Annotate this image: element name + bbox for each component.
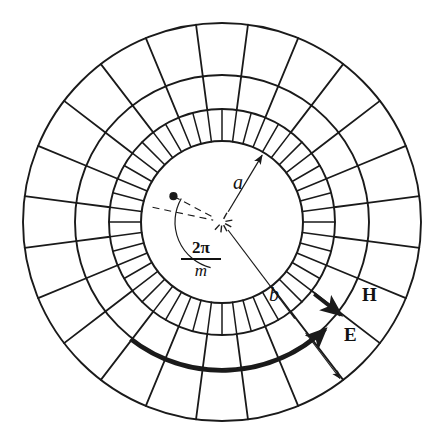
mesh-radial-line bbox=[166, 86, 179, 117]
mesh-radial-line bbox=[203, 334, 207, 368]
mesh-radial-line bbox=[263, 124, 279, 152]
mesh-radial-line bbox=[291, 105, 312, 132]
mesh-radial-line bbox=[133, 105, 154, 132]
mesh-radial-line bbox=[207, 302, 211, 334]
mesh-radial-line bbox=[207, 110, 211, 142]
mesh-radial-line bbox=[233, 110, 237, 142]
center-cross-tick bbox=[224, 225, 227, 231]
mesh-radial-line bbox=[368, 196, 420, 203]
mesh-radial-line bbox=[133, 312, 154, 339]
mesh-radial-line bbox=[311, 339, 343, 380]
mesh-radial-line bbox=[279, 142, 302, 165]
magnetic-field-label: H bbox=[362, 285, 377, 304]
mesh-radial-line bbox=[278, 38, 298, 86]
mesh-radial-line bbox=[193, 300, 201, 331]
mesh-radial-line bbox=[300, 193, 331, 201]
mesh-radial-line bbox=[265, 326, 278, 357]
inner-circle-a bbox=[141, 141, 303, 303]
mesh-radial-line bbox=[153, 132, 172, 157]
mesh-radial-line bbox=[166, 292, 182, 320]
mesh-radial-line bbox=[132, 271, 157, 290]
mesh-radial-line bbox=[196, 25, 203, 77]
mesh-radial-line bbox=[286, 271, 311, 290]
mesh-radial-line bbox=[179, 118, 191, 148]
center-cross-tick bbox=[224, 213, 227, 219]
sector-angle-label: 2π m bbox=[181, 238, 221, 280]
wedge-dashed-line-1 bbox=[173, 196, 214, 218]
mesh-radial-line bbox=[105, 291, 132, 312]
mesh-radial-line bbox=[153, 286, 172, 311]
center-cross-tick bbox=[221, 225, 222, 232]
mesh-radial-line bbox=[146, 38, 166, 86]
mesh-radial-line bbox=[38, 278, 86, 298]
mesh-radial-line bbox=[297, 179, 327, 191]
mesh-radial-line bbox=[142, 279, 165, 302]
mesh-radial-line bbox=[326, 166, 357, 179]
mesh-radial-line bbox=[101, 64, 133, 105]
mesh-radial-line bbox=[64, 101, 105, 133]
h-field-arrow-icon bbox=[314, 294, 341, 315]
figure-root: a b H E 2π m bbox=[0, 0, 434, 446]
mesh-radial-line bbox=[292, 263, 320, 279]
mesh-radial-line bbox=[86, 166, 117, 179]
mesh-radial-line bbox=[110, 233, 142, 237]
mesh-radial-line bbox=[101, 339, 133, 380]
mesh-radial-line bbox=[124, 166, 152, 182]
annular-mesh-diagram bbox=[0, 0, 434, 446]
center-cross-icon bbox=[215, 213, 232, 233]
mesh-radial-line bbox=[358, 146, 406, 166]
mesh-radial-line bbox=[132, 153, 157, 172]
mesh-radial-line bbox=[124, 263, 152, 279]
mesh-radial-line bbox=[286, 153, 311, 172]
mesh-radial-line bbox=[110, 207, 142, 211]
mesh-radial-line bbox=[179, 297, 191, 327]
mesh-radial-line bbox=[118, 253, 148, 265]
mesh-radial-line bbox=[241, 368, 248, 420]
sector-angle-denominator: m bbox=[181, 260, 221, 280]
center-cross-tick bbox=[215, 225, 220, 230]
mesh-radial-line bbox=[166, 326, 179, 357]
mesh-radial-line bbox=[339, 101, 380, 133]
mesh-radial-line bbox=[105, 133, 132, 154]
radius-a-label: a bbox=[233, 172, 243, 192]
mesh-radial-line bbox=[241, 25, 248, 77]
mesh-radial-line bbox=[196, 368, 203, 420]
mesh-radial-line bbox=[142, 142, 165, 165]
mesh-radial-line bbox=[193, 113, 201, 144]
mesh-radial-line bbox=[203, 76, 207, 110]
mesh-radial-line bbox=[76, 237, 110, 241]
mesh-radial-line bbox=[233, 302, 237, 334]
mesh-radial-line bbox=[300, 243, 331, 251]
mesh-radial-line bbox=[253, 297, 265, 327]
mesh-radial-line bbox=[326, 265, 357, 278]
mesh-radial-line bbox=[166, 124, 182, 152]
mesh-radial-line bbox=[113, 193, 144, 201]
mesh-radial-line bbox=[146, 358, 166, 406]
mesh-radial-line bbox=[312, 133, 339, 154]
mesh-radial-line bbox=[25, 241, 77, 248]
mesh-radial-line bbox=[297, 253, 327, 265]
outer-circle-b bbox=[23, 23, 421, 421]
mesh-radial-line bbox=[292, 166, 320, 182]
mesh-radial-line bbox=[64, 311, 105, 343]
mesh-radial-line bbox=[118, 179, 148, 191]
wedge-dashed-line-2 bbox=[153, 207, 214, 220]
mesh-radial-line bbox=[311, 64, 343, 105]
mesh-radial-line bbox=[334, 237, 368, 241]
mesh-radial-line bbox=[76, 203, 110, 207]
center-cross-tick bbox=[225, 224, 231, 227]
mesh-radial-line bbox=[243, 300, 251, 331]
mesh-group bbox=[23, 23, 421, 421]
mesh-radial-line bbox=[237, 76, 241, 110]
sector-angle-numerator: 2π bbox=[181, 238, 221, 257]
mesh-radial-line bbox=[368, 241, 420, 248]
mesh-radial-line bbox=[302, 233, 334, 237]
electric-field-label: E bbox=[344, 325, 357, 344]
mesh-radial-line bbox=[237, 334, 241, 368]
mesh-radial-line bbox=[38, 146, 86, 166]
mesh-radial-line bbox=[302, 207, 334, 211]
mesh-radial-line bbox=[265, 86, 278, 117]
mesh-radial-line bbox=[86, 265, 117, 278]
mesh-radial-line bbox=[291, 312, 312, 339]
mesh-radial-line bbox=[25, 196, 77, 203]
